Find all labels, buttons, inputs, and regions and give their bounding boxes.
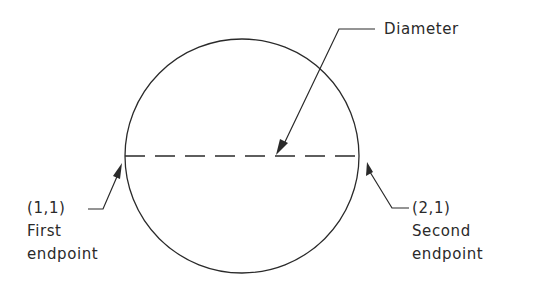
arrowhead-icon xyxy=(276,139,288,155)
first-endpoint-leader xyxy=(88,163,122,209)
second-endpoint-label-line1: Second xyxy=(412,222,471,240)
second-endpoint-coord: (2,1) xyxy=(412,199,451,217)
second-endpoint-leader xyxy=(366,162,409,208)
first-endpoint-coord: (1,1) xyxy=(27,199,66,217)
circle-diameter-diagram: Diameter (1,1) First endpoint (2,1) Seco… xyxy=(0,0,537,293)
arrowhead-icon xyxy=(113,163,122,179)
arrowhead-icon xyxy=(366,162,373,176)
first-endpoint-label-line1: First xyxy=(27,222,62,240)
diameter-label: Diameter xyxy=(384,20,459,38)
first-endpoint-label-line2: endpoint xyxy=(27,245,98,263)
second-endpoint-label-line2: endpoint xyxy=(412,245,483,263)
diameter-leader xyxy=(276,29,375,155)
